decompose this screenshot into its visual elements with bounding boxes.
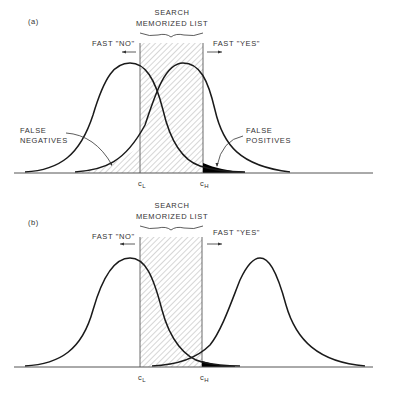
panel-b-header-memorized-list: MEMORIZED LIST xyxy=(136,212,208,221)
panel-a-header-search: SEARCH xyxy=(155,8,190,17)
panel-a: (a) SEARCH MEMORIZED LIST FAST "NO" FAST… xyxy=(14,8,373,189)
panel-a-fast-yes: FAST "YES" xyxy=(213,39,260,48)
panel-a-false-negatives-pointer-icon xyxy=(66,133,112,165)
panel-a-false-positives-pointer-icon xyxy=(217,136,243,166)
right-arrow-icon xyxy=(207,243,222,246)
panel-a-header-memorized-list: MEMORIZED LIST xyxy=(136,19,208,28)
panel-b-new-items-curve xyxy=(25,258,240,366)
panel-a-false-positives-label-1: FALSE xyxy=(246,126,272,135)
panel-b-brace-icon xyxy=(140,226,203,230)
panel-b-header-search: SEARCH xyxy=(155,201,190,210)
right-arrow-icon xyxy=(207,51,222,54)
panel-b-fast-yes: FAST "YES" xyxy=(213,228,260,237)
panel-a-criterion-high-label: cH xyxy=(200,179,209,189)
panel-b-search-region xyxy=(140,237,202,367)
left-arrow-icon xyxy=(120,243,135,246)
panel-a-false-positives-label-2: POSITIVES xyxy=(246,136,291,145)
panel-a-fast-no: FAST "NO" xyxy=(92,39,135,48)
panel-b-label: (b) xyxy=(28,218,39,227)
panel-a-search-region xyxy=(140,43,203,173)
panel-b-criterion-low-label: cL xyxy=(138,373,146,383)
panel-a-false-negatives-label-1: FALSE xyxy=(20,126,46,135)
panel-b-criterion-high-label: cH xyxy=(200,373,209,383)
signal-detection-diagram: (a) SEARCH MEMORIZED LIST FAST "NO" FAST… xyxy=(0,0,393,394)
panel-a-criterion-low-label: cL xyxy=(138,179,146,189)
panel-b: (b) SEARCH MEMORIZED LIST FAST "NO" FAST… xyxy=(14,201,373,383)
panel-a-brace-icon xyxy=(140,33,203,37)
panel-b-fast-no: FAST "NO" xyxy=(92,232,135,241)
panel-a-false-negatives-region xyxy=(75,146,140,173)
left-arrow-icon xyxy=(122,51,136,54)
panel-a-false-negatives-label-2: NEGATIVES xyxy=(20,136,68,145)
panel-a-label: (a) xyxy=(28,17,39,26)
